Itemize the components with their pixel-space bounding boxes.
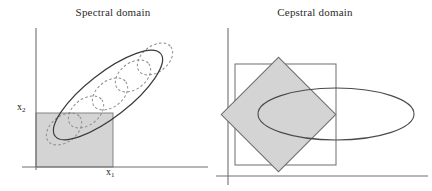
spectral-inner-ellipse [109, 53, 157, 98]
panel-cepstral-domain: Cepstral domain [216, 0, 432, 191]
spectral-inner-ellipse [131, 36, 179, 81]
cepstral-shaded-diamond [221, 57, 336, 172]
cepstral-plot [216, 0, 432, 191]
spectral-y-axis-label-sub: 2 [22, 106, 26, 114]
spectral-y-axis-label: x2 [17, 101, 26, 114]
spectral-x-axis-label: x1 [106, 166, 115, 179]
spectral-plot [0, 0, 216, 191]
panel-spectral-domain: Spectral domain x2 x1 [0, 0, 216, 191]
spectral-x-axis-label-sub: 1 [111, 171, 115, 179]
figure-root: Spectral domain x2 x1 Cepstral domain [0, 0, 432, 191]
